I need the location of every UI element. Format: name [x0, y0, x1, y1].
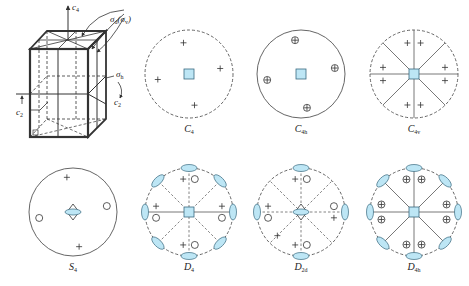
dashed-mirror-line	[301, 181, 332, 212]
plus-mark	[219, 203, 225, 209]
sigma-h-label: σh	[116, 69, 123, 80]
open-circle-mark	[103, 203, 110, 210]
open-circle-mark	[303, 176, 310, 183]
sigma-h-hidden	[30, 76, 47, 94]
plus-mark	[76, 244, 82, 250]
dashed-mirror-line	[301, 212, 332, 243]
open-circle-mark	[191, 176, 198, 183]
point-group-figure: c4 σd(σv) σh c2 c2 C4C4hC4vS4D4D2dD4h	[0, 0, 469, 286]
plus-mark	[180, 176, 186, 182]
four-fold-axis-square	[409, 69, 419, 79]
two-fold-axis-lens	[181, 165, 197, 172]
c2-right-label: c2	[114, 97, 121, 108]
four-fold-axis-square	[296, 69, 306, 79]
dashed-mirror-line	[270, 212, 301, 243]
stereogram-d2d: D2d	[254, 165, 349, 274]
open-circle-mark	[153, 214, 160, 221]
group-label: D2d	[293, 261, 307, 273]
dashed-mirror-line	[270, 181, 301, 212]
two-fold-axis-lens	[293, 253, 309, 260]
two-fold-axis-lens	[150, 173, 166, 189]
two-fold-axis-lens	[406, 253, 422, 260]
plus-mark	[265, 203, 271, 209]
plus-mark	[180, 40, 186, 46]
s4-lens	[65, 209, 81, 215]
four-fold-axis-square	[184, 207, 194, 217]
plus-mark	[442, 64, 448, 70]
plus-mark	[192, 102, 198, 108]
stereogram-s4: S4	[29, 168, 117, 273]
two-fold-axis-lens	[181, 253, 197, 260]
c2-left-label: c2	[16, 107, 23, 118]
plus-mark	[404, 40, 410, 46]
two-fold-axis-lens	[212, 235, 228, 251]
s4-lens	[293, 209, 309, 215]
plus-mark	[418, 40, 424, 46]
stereogram-c4v: C4v	[370, 30, 458, 135]
plus-mark	[64, 174, 70, 180]
two-fold-axis-lens	[367, 204, 374, 220]
two-fold-axis-lens	[212, 173, 228, 189]
plus-mark	[180, 242, 186, 248]
open-circle-mark	[265, 214, 272, 221]
tetragonal-prism-drawing	[16, 6, 124, 137]
open-circle-mark	[191, 241, 198, 248]
two-fold-axis-lens	[406, 165, 422, 172]
plus-mark	[292, 242, 298, 248]
plus-mark	[331, 215, 337, 221]
four-fold-axis-square	[409, 207, 419, 217]
group-label: S4	[69, 261, 77, 273]
stereogram-c4h: C4h	[257, 30, 345, 135]
two-fold-axis-lens	[293, 165, 309, 172]
group-label: D4h	[406, 261, 420, 273]
plus-mark	[380, 64, 386, 70]
two-fold-axis-lens	[455, 204, 462, 220]
plus-mark	[217, 65, 223, 71]
c2-right-arrow	[118, 82, 122, 98]
plus-mark	[155, 77, 161, 83]
prism-hidden-edge	[30, 119, 47, 137]
stereogram-c4: C4	[145, 30, 233, 135]
plus-mark	[442, 78, 448, 84]
plus-mark	[418, 102, 424, 108]
plus-mark	[380, 78, 386, 84]
group-label: C4h	[295, 123, 308, 135]
two-fold-axis-lens	[254, 204, 261, 220]
open-circle-mark	[36, 214, 43, 221]
plus-mark	[404, 102, 410, 108]
open-circle-mark	[303, 241, 310, 248]
group-label: C4	[184, 123, 194, 135]
two-fold-axis-lens	[342, 204, 349, 220]
c4-label: c4	[72, 2, 79, 13]
two-fold-axis-lens	[142, 204, 149, 220]
stereogram-d4h: D4h	[367, 165, 462, 274]
stereogram-d4: D4	[142, 165, 237, 274]
plus-mark	[153, 203, 159, 209]
two-fold-axis-lens	[150, 235, 166, 251]
four-fold-axis-square	[184, 69, 194, 79]
sigma-h-leader	[106, 76, 114, 78]
sigma-d-label: σd(σv)	[110, 14, 131, 25]
open-circle-mark	[330, 203, 337, 210]
group-label: C4v	[408, 123, 421, 135]
plus-mark	[292, 176, 298, 182]
stereogram-grid: C4C4hC4vS4D4D2dD4h	[29, 30, 462, 273]
group-label: D4	[183, 261, 194, 273]
bottom-diagonal	[47, 119, 88, 137]
two-fold-axis-lens	[230, 204, 237, 220]
open-circle-mark	[218, 214, 225, 221]
